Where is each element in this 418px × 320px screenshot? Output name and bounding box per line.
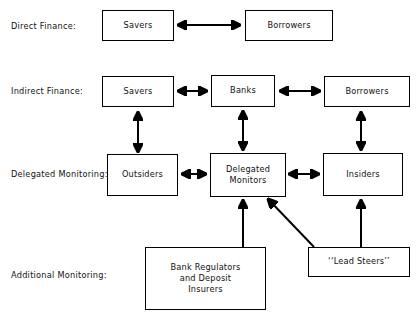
node-bank-regulators[interactable]: Bank Regulators and Deposit Insurers — [145, 247, 266, 310]
row-label-additional-monitoring: Additional Monitoring: — [11, 271, 107, 279]
node-banks-label: Banks — [230, 85, 256, 96]
node-outsiders[interactable]: Outsiders — [107, 154, 178, 196]
node-borrowers-indirect[interactable]: Borrowers — [324, 76, 410, 107]
node-outsiders-label: Outsiders — [122, 169, 163, 180]
node-delegated-monitors-label: Delegated Monitors — [226, 164, 270, 186]
node-savers-indirect-label: Savers — [124, 86, 153, 97]
node-borrowers-direct[interactable]: Borrowers — [245, 10, 333, 41]
diagram-canvas: Direct Finance: Indirect Finance: Delega… — [0, 0, 418, 320]
node-insiders-label: Insiders — [346, 169, 380, 180]
row-label-indirect-finance: Indirect Finance: — [11, 87, 83, 95]
node-lead-steers-label: ‘‘Lead Steers’’ — [328, 256, 390, 267]
row-label-delegated-monitoring: Delegated Monitoring: — [11, 170, 108, 178]
node-savers-direct-label: Savers — [124, 20, 153, 31]
node-bank-regulators-label: Bank Regulators and Deposit Insurers — [170, 262, 240, 295]
edge-lead-steers-delegated-monitors — [268, 199, 314, 247]
node-borrowers-indirect-label: Borrowers — [345, 86, 388, 97]
node-borrowers-direct-label: Borrowers — [267, 20, 310, 31]
node-delegated-monitors[interactable]: Delegated Monitors — [210, 153, 286, 197]
node-lead-steers[interactable]: ‘‘Lead Steers’’ — [308, 247, 410, 277]
node-insiders[interactable]: Insiders — [323, 153, 403, 196]
node-savers-indirect[interactable]: Savers — [102, 76, 174, 107]
row-label-direct-finance: Direct Finance: — [11, 22, 76, 30]
node-banks[interactable]: Banks — [211, 75, 275, 107]
node-savers-direct[interactable]: Savers — [102, 10, 174, 41]
